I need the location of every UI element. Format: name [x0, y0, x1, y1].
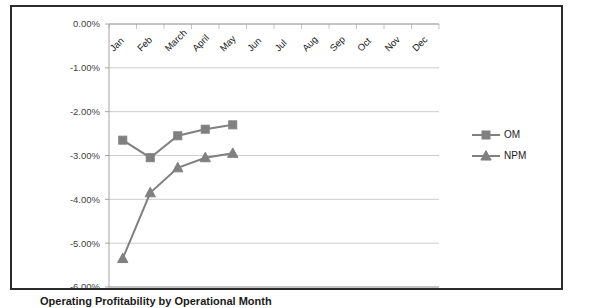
x-tick-label: Aug [300, 34, 320, 54]
x-tick-label: Feb [135, 34, 154, 53]
x-tick-label: Oct [355, 35, 373, 53]
series-npm [118, 148, 238, 263]
x-tick-label: Dec [410, 34, 430, 54]
chart-frame: 0.00%-1.00%-2.00%-3.00%-4.00%-5.00%-6.00… [10, 5, 563, 290]
y-tick-label: -1.00% [70, 62, 101, 73]
legend-label: NPM [504, 150, 526, 161]
y-tick-label: 0.00% [73, 18, 100, 29]
y-tick-label: -6.00% [70, 281, 101, 288]
y-tick-label: -4.00% [70, 194, 101, 205]
plot-area: 0.00%-1.00%-2.00%-3.00%-4.00%-5.00%-6.00… [12, 7, 561, 288]
x-tick-label: March [162, 27, 188, 53]
legend-label: OM [504, 129, 520, 140]
x-axis-tick-labels: JanFebMarchAprilMayJunJulAugSepOctNovDec [107, 27, 429, 53]
y-tick-label: -3.00% [70, 150, 101, 161]
data-series-group [118, 121, 238, 263]
figure-caption: Operating Profitability by Operational M… [40, 294, 560, 307]
y-tick-label: -2.00% [70, 106, 101, 117]
x-tick-label: April [190, 32, 211, 53]
line-chart: 0.00%-1.00%-2.00%-3.00%-4.00%-5.00%-6.00… [12, 7, 563, 288]
x-tick-label: Jan [107, 35, 126, 54]
gridlines-group [105, 24, 439, 287]
x-tick-label: Jul [272, 37, 288, 53]
chart-legend: OMNPM [472, 129, 526, 161]
y-axis-tick-labels: 0.00%-1.00%-2.00%-3.00%-4.00%-5.00%-6.00… [70, 18, 101, 288]
x-tick-label: Nov [382, 34, 402, 54]
legend-item-om[interactable]: OM [472, 129, 520, 140]
x-tick-label: Sep [327, 34, 347, 54]
x-tickmarks-group [109, 24, 439, 29]
y-tick-label: -5.00% [70, 238, 101, 249]
x-tick-label: May [217, 33, 238, 54]
legend-item-npm[interactable]: NPM [472, 150, 526, 161]
x-tick-label: Jun [245, 35, 264, 54]
